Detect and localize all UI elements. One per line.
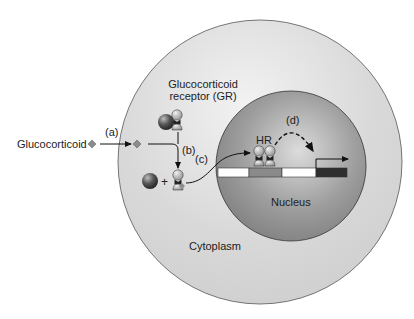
hsp-sphere-icon — [142, 173, 158, 189]
step-a-label: (a) — [105, 126, 118, 138]
receptor-label-line2: receptor (GR) — [163, 90, 243, 102]
receptor-label: Glucocorticoid receptor (GR) — [163, 78, 243, 102]
hr-label: HR — [256, 134, 272, 146]
cytoplasm-label: Cytoplasm — [189, 240, 241, 252]
step-c-label: (c) — [195, 153, 208, 165]
receptor-label-line1: Glucocorticoid — [163, 78, 243, 90]
dna-strand — [218, 168, 347, 177]
hormone-diamond-icon — [88, 140, 96, 148]
step-d-label: (d) — [286, 114, 299, 126]
plus-sign: + — [161, 176, 168, 188]
nucleus-label: Nucleus — [271, 196, 311, 208]
step-b-label: (b) — [182, 144, 195, 156]
glucocorticoid-label: Glucocorticoid — [17, 138, 87, 150]
